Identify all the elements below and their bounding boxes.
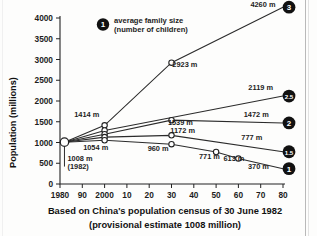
series-badge-label-2.5: 2.5 bbox=[285, 93, 294, 100]
series-badge-label-1: 1 bbox=[287, 165, 292, 174]
data-point-label: 1172 m bbox=[170, 126, 195, 135]
y-tick-label: 0 bbox=[48, 179, 53, 189]
x-tick-label: 1980 bbox=[51, 190, 70, 200]
data-point-label: 370 m bbox=[248, 162, 269, 171]
legend-line-2: (number of children) bbox=[114, 25, 188, 34]
y-tick-label: 2000 bbox=[35, 96, 54, 106]
series-end-badges: 32.521.51 bbox=[283, 1, 296, 175]
data-point-label: 2119 m bbox=[248, 83, 273, 92]
data-point-label: 960 m bbox=[148, 144, 169, 153]
x-tick-label: 50 bbox=[211, 190, 221, 200]
x-tick-label: 60 bbox=[234, 190, 244, 200]
x-tick-label: 30 bbox=[167, 190, 177, 200]
x-axis-ticks: 19809020001020304050607080 bbox=[51, 184, 288, 200]
y-tick-label: 2500 bbox=[35, 75, 54, 85]
y-tick-label: 3000 bbox=[35, 55, 54, 65]
y-axis-title: Population (millions) bbox=[8, 77, 18, 168]
data-point-marker bbox=[102, 123, 107, 128]
y-tick-label: 3500 bbox=[35, 34, 54, 44]
series-badge-label-2: 2 bbox=[287, 119, 292, 128]
y-axis-ticks: 05001000150020002500300035004000 bbox=[35, 13, 60, 189]
baseline-marker bbox=[60, 138, 68, 146]
data-point-label: 777 m bbox=[241, 133, 262, 142]
x-tick-label: 90 bbox=[78, 190, 88, 200]
x-tick-label: 10 bbox=[122, 190, 132, 200]
y-tick-label: 4000 bbox=[35, 13, 54, 23]
x-tick-label: 2000 bbox=[95, 190, 114, 200]
legend: 1 average family size (number of childre… bbox=[97, 16, 188, 34]
data-point-label: 1414 m bbox=[74, 110, 99, 119]
x-tick-label: 40 bbox=[189, 190, 199, 200]
baseline-sublabel: (1982) bbox=[67, 162, 89, 171]
data-point-label: 613 m bbox=[223, 154, 244, 163]
caption-line-2: (provisional estimate 1008 million) bbox=[89, 220, 241, 230]
data-point-label: 1472 m bbox=[244, 110, 269, 119]
figure-page: 05001000150020002500300035004000 1980902… bbox=[0, 0, 317, 236]
y-tick-label: 500 bbox=[39, 158, 53, 168]
population-projection-chart: 05001000150020002500300035004000 1980902… bbox=[0, 0, 317, 236]
data-point-label: 1054 m bbox=[83, 143, 108, 152]
data-point-marker bbox=[169, 141, 174, 146]
data-point-label: 4260 m bbox=[250, 0, 275, 9]
data-point-label: 771 m bbox=[199, 152, 220, 161]
chart-axes bbox=[60, 16, 285, 184]
data-point-label: 2923 m bbox=[172, 60, 197, 69]
x-tick-label: 70 bbox=[256, 190, 266, 200]
legend-badge-label: 1 bbox=[101, 20, 106, 29]
series-badge-label-1.5: 1.5 bbox=[285, 149, 294, 156]
x-tick-label: 20 bbox=[145, 190, 155, 200]
y-tick-label: 1500 bbox=[35, 117, 54, 127]
legend-line-1: average family size bbox=[114, 16, 183, 25]
caption-line-1: Based on China's population census of 30… bbox=[48, 206, 282, 216]
y-tick-label: 1000 bbox=[35, 138, 54, 148]
x-tick-label: 80 bbox=[278, 190, 288, 200]
series-badge-label-3: 3 bbox=[287, 3, 292, 12]
